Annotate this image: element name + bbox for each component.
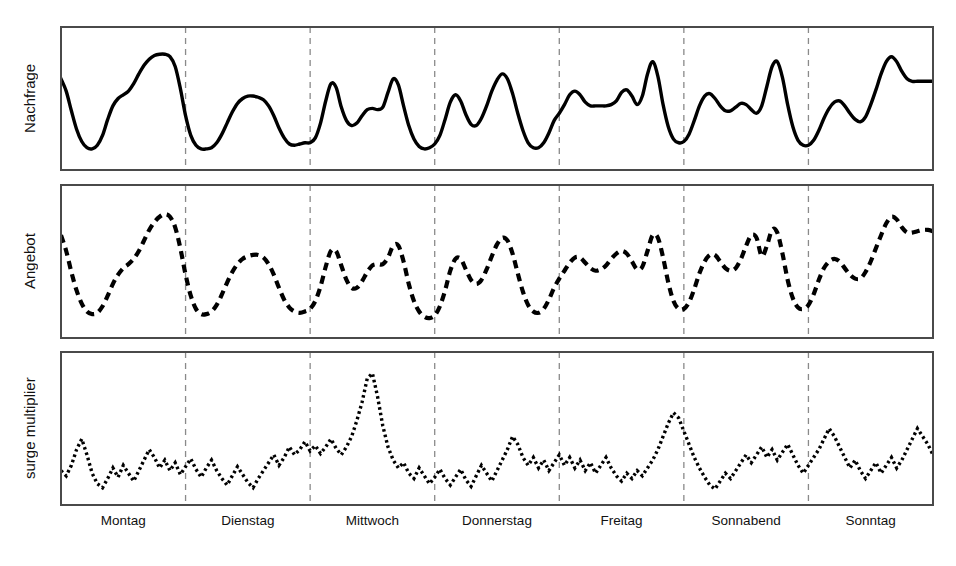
surge-pricing-figure: Nachfrage Angebot surge multiplier Monta… bbox=[0, 0, 956, 566]
panel-frame-surge-multiplier bbox=[61, 352, 933, 505]
y-axis-label-surge-multiplier: surge multiplier bbox=[22, 352, 42, 505]
y-axis-label-nachfrage: Nachfrage bbox=[22, 27, 42, 170]
x-tick-label-freitag: Freitag bbox=[552, 513, 692, 528]
panel-nachfrage bbox=[61, 27, 933, 170]
x-tick-label-sonntag: Sonntag bbox=[801, 513, 941, 528]
x-tick-label-mittwoch: Mittwoch bbox=[302, 513, 442, 528]
x-tick-label-dienstag: Dienstag bbox=[178, 513, 318, 528]
panel-frame-angebot bbox=[61, 185, 933, 338]
x-tick-label-donnerstag: Donnerstag bbox=[427, 513, 567, 528]
panel-angebot bbox=[61, 185, 933, 338]
series-line-nachfrage bbox=[61, 54, 933, 149]
series-line-angebot bbox=[61, 214, 933, 318]
series-line-surge-multiplier bbox=[61, 373, 933, 489]
y-axis-label-angebot: Angebot bbox=[22, 185, 42, 338]
x-tick-label-sonnabend: Sonnabend bbox=[676, 513, 816, 528]
panel-frame-nachfrage bbox=[61, 27, 933, 170]
plot-area bbox=[0, 0, 956, 566]
x-tick-label-montag: Montag bbox=[53, 513, 193, 528]
panel-surge-multiplier bbox=[61, 352, 933, 505]
